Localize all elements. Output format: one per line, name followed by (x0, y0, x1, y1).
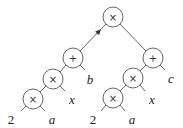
node-left-times-1: × (43, 69, 63, 89)
edge-root-lplus (80, 24, 106, 51)
edge-rmul1-rmul2 (120, 85, 126, 91)
edge-rmul2-2 (101, 105, 106, 111)
edge-lmul1-lmul2 (40, 86, 46, 92)
node-right-plus: + (143, 48, 163, 68)
edge-rplus-rmul1 (140, 65, 146, 71)
leaf-left-2: 2 (8, 112, 15, 127)
node-label: × (109, 12, 117, 23)
node-label: + (149, 53, 157, 64)
edge-lmul1-x (60, 86, 65, 91)
edge-rmul2-a (120, 105, 125, 111)
edge-rplus-c (160, 65, 165, 70)
leaf-right-a: a (129, 112, 136, 127)
node-right-times-1: × (123, 68, 143, 88)
leaf-right-x: x (148, 92, 155, 107)
node-root: × (103, 7, 123, 27)
node-label: × (109, 93, 117, 104)
edge-root-rplus (120, 24, 146, 51)
node-right-times-2: × (103, 88, 123, 108)
leaf-left-a: a (49, 112, 56, 127)
leaf-left-b: b (87, 72, 94, 87)
edge-lmul2-2 (21, 106, 26, 111)
edge-lplus-lmul1 (60, 65, 66, 72)
node-label: × (129, 73, 137, 84)
node-left-times-2: × (23, 89, 43, 109)
edge-rmul1-x (140, 85, 145, 91)
node-left-plus: + (63, 48, 83, 68)
node-label: + (69, 53, 77, 64)
edge-lplus-b (80, 65, 85, 70)
leaf-left-x: x (68, 92, 75, 107)
expression-tree-diagram: × + × × + × × 2 a x b 2 a x c (0, 0, 183, 128)
leaf-right-c: c (168, 71, 174, 86)
node-label: × (29, 94, 37, 105)
edge-root-lplus-arrow (96, 31, 99, 34)
edge-lmul2-a (40, 106, 45, 111)
leaf-right-2: 2 (90, 112, 97, 127)
node-label: × (49, 74, 57, 85)
